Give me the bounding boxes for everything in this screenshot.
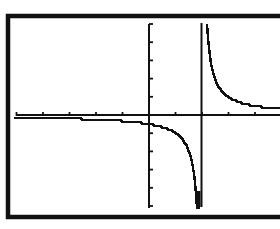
left-branch-tip [197, 191, 201, 207]
graph-plot [0, 0, 280, 229]
calculator-graph-screen [0, 0, 280, 229]
